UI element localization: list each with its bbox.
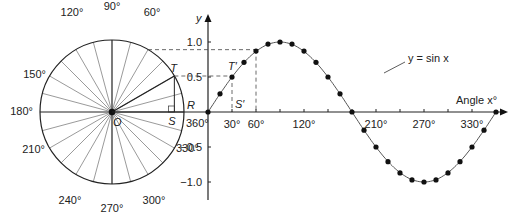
x-tick-label: 60° [248,118,265,130]
data-point [409,177,414,182]
data-point [469,144,474,149]
y-tick-label: −0.5 [180,141,202,153]
y-tick-label: −1.0 [180,176,202,188]
data-point [361,128,366,133]
data-point [385,159,390,164]
data-point [349,109,354,114]
data-point [229,74,234,79]
angle-label-120: 120° [61,6,84,18]
x-tick-label: 330° [461,118,484,130]
diagram-canvas: 60°90°120°150°180°210°240°270°300°330°36… [0,0,520,216]
angle-label-270: 270° [101,202,124,214]
circle-spoke [42,112,112,131]
data-point [205,109,210,114]
data-point [397,170,402,175]
y-axis-arrow-icon [205,14,212,22]
label-t-prime: T′ [228,60,238,72]
data-point [493,109,498,114]
data-point [337,91,342,96]
data-point [373,144,378,149]
data-point [265,42,270,47]
angle-label-60: 60° [144,6,161,18]
curve-label: y = sin x [408,52,449,64]
label-t: T [170,62,178,74]
angle-label-360: 360° [186,117,209,129]
label-o: O [113,116,122,128]
data-point [301,49,306,54]
angle-label-240: 240° [59,194,82,206]
circle-spoke [112,50,148,112]
data-point [241,60,246,65]
angle-label-150: 150° [23,68,46,80]
x-tick-label: 120° [293,118,316,130]
right-angle-marker [168,106,174,112]
data-point [277,39,282,44]
x-tick-label: 270° [413,118,436,130]
data-point [421,179,426,184]
x-axis-arrow-icon [500,109,508,116]
data-point [253,49,258,54]
circle-spoke [50,76,112,112]
angle-label-300: 300° [143,194,166,206]
data-point [325,74,330,79]
y-tick-label: 1.0 [187,36,202,48]
circle-spoke [76,112,112,174]
y-tick-label: 0.5 [187,71,202,83]
circle-spoke [61,112,112,163]
circle-spoke [93,42,112,112]
circle-spoke [50,112,112,148]
x-axis-label: Angle x° [456,94,497,106]
data-point [445,170,450,175]
label-s-prime: S′ [235,98,245,110]
data-point [289,42,294,47]
radius-ot [112,76,174,112]
circle-spoke [61,61,112,112]
circle-spoke [42,93,112,112]
circle-spoke [76,50,112,112]
data-point [457,159,462,164]
angle-label-180: 180° [10,105,33,117]
label-r: R [187,99,195,111]
angle-label-210: 210° [22,143,45,155]
y-axis-label: y [195,12,203,24]
data-point [313,60,318,65]
circle-spoke [112,93,182,112]
data-point [481,128,486,133]
label-s: S [168,115,176,127]
data-point [433,177,438,182]
angle-label-90: 90° [104,0,121,12]
curve-label-leader [384,62,405,73]
circle-spoke [112,42,131,112]
circle-spoke [93,112,112,182]
data-point [217,91,222,96]
x-tick-label: 30° [224,118,241,130]
x-tick-label: 210° [365,118,388,130]
sine-wave-diagram: 60°90°120°150°180°210°240°270°300°330°36… [0,0,520,216]
